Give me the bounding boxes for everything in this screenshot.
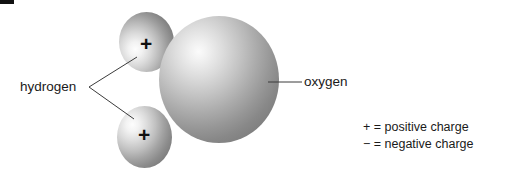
positive-charge-icon-top: + bbox=[140, 33, 152, 54]
positive-charge-icon-bottom: + bbox=[138, 124, 150, 145]
negative-charge-icon-oxygen bbox=[0, 0, 14, 4]
hydrogen-label: hydrogen bbox=[20, 80, 76, 94]
charge-legend: + = positive charge − = negative charge bbox=[363, 119, 474, 153]
legend-line-positive: + = positive charge bbox=[363, 119, 474, 136]
legend-line-negative: − = negative charge bbox=[363, 136, 474, 153]
water-molecule-diagram: + + hydrogen oxygen + = positive charge … bbox=[0, 0, 512, 178]
oxygen-label: oxygen bbox=[304, 75, 348, 89]
oxygen-atom-sphere bbox=[159, 16, 279, 143]
